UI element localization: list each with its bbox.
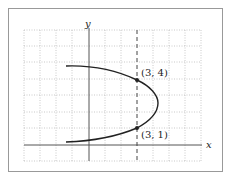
y-axis-label: y: [84, 18, 91, 29]
frame: [9, 9, 223, 172]
label-3-1: (3, 1): [141, 129, 168, 140]
label-3-4: (3, 4): [141, 67, 168, 78]
grid: [24, 30, 201, 161]
chart: (3, 4) (3, 1) y x: [0, 0, 231, 181]
x-axis-label: x: [206, 139, 212, 150]
point-3-4: [135, 78, 139, 82]
point-3-1: [135, 126, 139, 130]
